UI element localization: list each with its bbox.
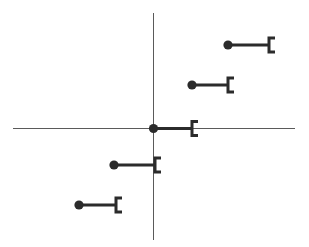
estimate-point-dot[interactable] bbox=[149, 124, 158, 133]
estimate-point-dot[interactable] bbox=[109, 160, 118, 169]
interval-marker[interactable] bbox=[149, 122, 198, 136]
interval-marker[interactable] bbox=[187, 78, 234, 92]
interval-marker[interactable] bbox=[74, 198, 122, 212]
estimate-point-dot[interactable] bbox=[187, 80, 196, 89]
figure-canvas bbox=[0, 0, 309, 247]
interval-bracket-icon bbox=[155, 158, 161, 172]
estimate-point-dot[interactable] bbox=[74, 200, 83, 209]
estimate-point-dot[interactable] bbox=[223, 40, 232, 49]
interval-bracket-icon bbox=[228, 78, 234, 92]
interval-bracket-icon bbox=[269, 38, 275, 52]
markers-group bbox=[74, 38, 275, 212]
interval-bracket-icon bbox=[116, 198, 122, 212]
plot-area bbox=[0, 0, 309, 247]
interval-marker[interactable] bbox=[223, 38, 275, 52]
